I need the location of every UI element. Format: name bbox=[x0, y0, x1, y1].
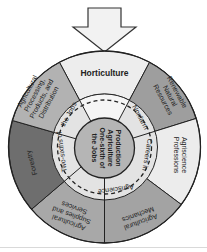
svg-text:Agriscience: Agriscience bbox=[180, 137, 188, 173]
label-horticulture: Horticulture bbox=[80, 68, 128, 78]
agriscience-careers-wheel: Horticulture Renewable Natural Resources… bbox=[0, 0, 207, 252]
down-arrow-icon bbox=[73, 8, 136, 52]
svg-text:Professions: Professions bbox=[173, 137, 180, 174]
label-agriscience-professions: Agriscience Professions bbox=[173, 137, 188, 174]
svg-text:Production: Production bbox=[115, 130, 122, 167]
bottom-divider bbox=[0, 247, 207, 248]
svg-text:the Jobs: the Jobs bbox=[91, 134, 98, 163]
svg-text:Agriculture: Agriculture bbox=[106, 129, 114, 166]
svg-text:One-sixth of: One-sixth of bbox=[99, 128, 106, 170]
